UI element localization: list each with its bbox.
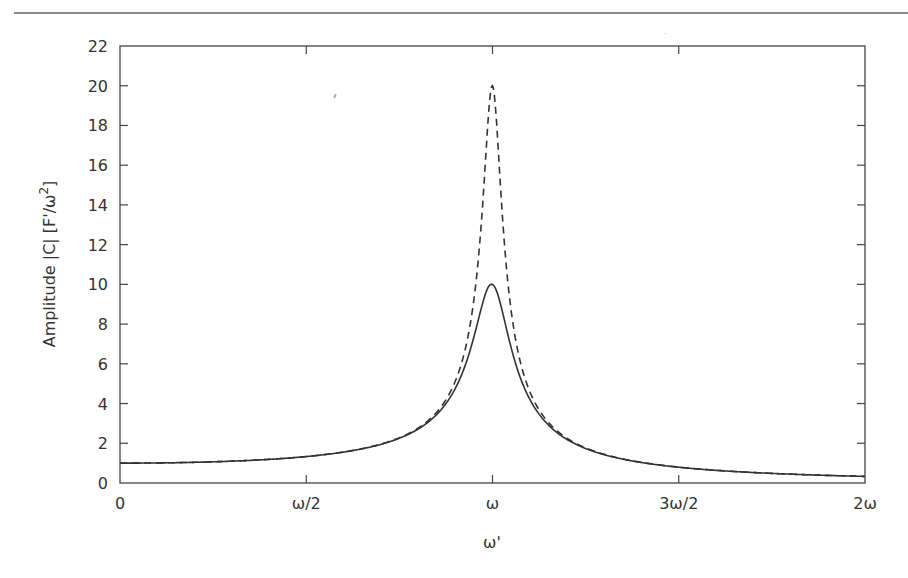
y-tick-label: 10 xyxy=(88,275,108,294)
x-axis-ticks: 0ω/2ω3ω/22ω xyxy=(115,46,877,513)
series-solid-curve xyxy=(120,284,865,476)
x-tick-label: ω xyxy=(486,494,499,513)
y-tick-label: 12 xyxy=(88,236,108,255)
y-tick-label: 22 xyxy=(88,37,108,56)
y-tick-label: 14 xyxy=(88,196,108,215)
y-tick-label: 4 xyxy=(98,395,108,414)
chart-series xyxy=(120,86,865,477)
plot-frame xyxy=(120,46,865,483)
y-tick-label: 20 xyxy=(88,77,108,96)
y-tick-label: 8 xyxy=(98,315,108,334)
series-dashed-curve xyxy=(120,86,865,477)
y-tick-label: 6 xyxy=(98,355,108,374)
x-tick-label: 2ω xyxy=(853,494,877,513)
resonance-chart: 0246810121416182022 0ω/2ω3ω/22ω ω' Ampli… xyxy=(0,0,908,578)
y-tick-label: 16 xyxy=(88,156,108,175)
y-tick-label: 2 xyxy=(98,434,108,453)
y-axis-title: Amplitude |C| [F'/ω2] xyxy=(37,181,59,348)
x-axis-title: ω' xyxy=(483,533,501,552)
x-tick-label: 0 xyxy=(115,494,125,513)
x-tick-label: 3ω/2 xyxy=(659,494,698,513)
y-tick-label: 0 xyxy=(98,474,108,493)
y-axis-ticks: 0246810121416182022 xyxy=(88,37,865,493)
y-tick-label: 18 xyxy=(88,116,108,135)
x-tick-label: ω/2 xyxy=(292,494,321,513)
